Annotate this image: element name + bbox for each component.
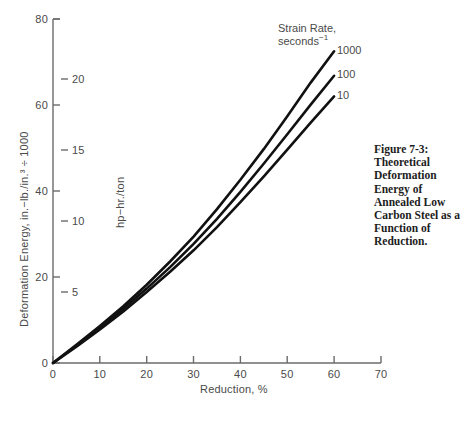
y2-tick-label-10: 10 bbox=[72, 215, 98, 227]
y-tick-label-60: 60 bbox=[22, 99, 48, 111]
legend-title-line1: Strain Rate, bbox=[278, 22, 336, 34]
x-tick-label-70: 70 bbox=[367, 368, 395, 380]
series-label-100: 100 bbox=[337, 68, 355, 80]
x-tick-label-0: 0 bbox=[39, 368, 67, 380]
y-secondary-ticks bbox=[61, 79, 68, 292]
x-axis-title: Reduction, % bbox=[200, 383, 268, 395]
y2-tick-label-20: 20 bbox=[72, 73, 98, 85]
x-tick-label-20: 20 bbox=[133, 368, 161, 380]
y-tick-label-80: 80 bbox=[22, 13, 48, 25]
chart-plot-area: 0 20 40 60 80 5 10 15 20 0 10 20 30 40 5… bbox=[0, 0, 420, 425]
x-axis-ticks bbox=[53, 356, 381, 363]
x-tick-label-60: 60 bbox=[320, 368, 348, 380]
y2-tick-label-15: 15 bbox=[72, 144, 98, 156]
x-tick-label-10: 10 bbox=[86, 368, 114, 380]
x-tick-label-50: 50 bbox=[273, 368, 301, 380]
y-axis-secondary-title: hp−hr./ton bbox=[114, 177, 126, 228]
chart-svg bbox=[0, 0, 420, 425]
curve-series-10 bbox=[53, 96, 334, 363]
legend-title-line2: seconds bbox=[278, 35, 319, 47]
legend-title: Strain Rate, seconds−1 bbox=[278, 22, 336, 48]
series-label-10: 10 bbox=[337, 89, 349, 101]
figure-7-3: 0 20 40 60 80 5 10 15 20 0 10 20 30 40 5… bbox=[0, 0, 472, 425]
series-label-1000: 1000 bbox=[337, 44, 361, 56]
figure-caption: Figure 7-3: Theoretical Deformation Ener… bbox=[374, 143, 470, 249]
y2-tick-label-5: 5 bbox=[72, 286, 98, 298]
legend-title-exponent: −1 bbox=[319, 33, 328, 42]
y-axis-primary-title: Deformation Energy, in.−lb./in.³ ÷ 1000 bbox=[18, 131, 30, 327]
y-primary-ticks bbox=[53, 19, 60, 363]
x-tick-label-40: 40 bbox=[226, 368, 254, 380]
curve-series-1000 bbox=[53, 51, 334, 363]
x-tick-label-30: 30 bbox=[180, 368, 208, 380]
